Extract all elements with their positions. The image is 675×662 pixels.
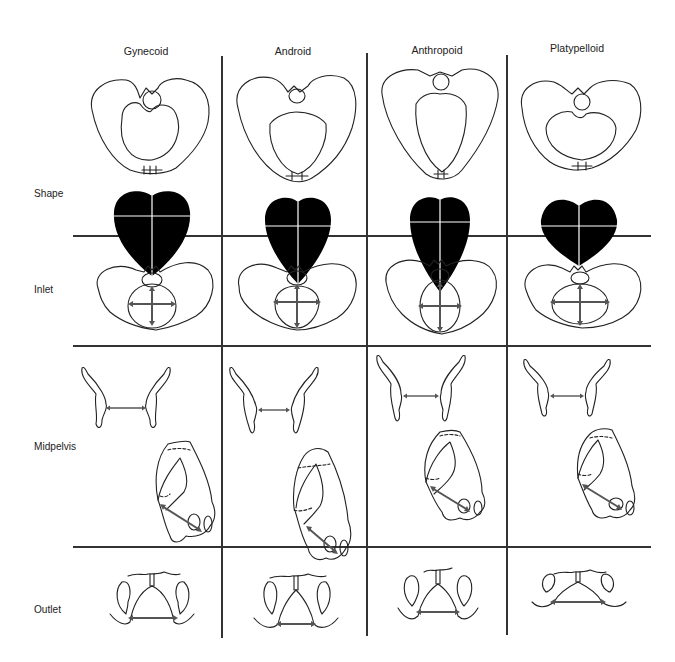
outlet-illustration-platypelloid — [530, 568, 630, 618]
midpelvis-lateral-platypelloid — [574, 428, 646, 528]
column-header-android: Android — [238, 45, 348, 57]
midpelvis-spines-platypelloid — [522, 356, 612, 422]
row-label-midpelvis: Midpelvis — [34, 440, 76, 452]
outlet-illustration-gynecoid — [108, 570, 198, 628]
column-divider-3 — [506, 55, 508, 635]
pelvis-illustration-android — [232, 68, 362, 184]
row-label-shape: Shape — [34, 187, 63, 199]
column-header-gynecoid: Gynecoid — [91, 45, 201, 57]
pelvis-illustration-platypelloid — [516, 72, 646, 176]
pelvis-illustration-anthropoid — [376, 64, 506, 184]
row-divider-inlet-midpelvis — [73, 345, 651, 347]
midpelvis-spines-anthropoid — [375, 352, 467, 426]
outlet-illustration-anthropoid — [396, 568, 486, 626]
column-divider-1 — [221, 56, 223, 638]
inlet-illustration-anthropoid — [380, 254, 504, 338]
row-label-outlet: Outlet — [34, 603, 61, 615]
midpelvis-spines-android — [228, 364, 320, 438]
column-divider-2 — [366, 53, 368, 636]
row-label-inlet: Inlet — [34, 283, 53, 295]
midpelvis-spines-gynecoid — [80, 364, 172, 432]
midpelvis-lateral-android — [290, 448, 360, 564]
outlet-illustration-android — [252, 574, 342, 632]
pelvis-illustration-gynecoid — [86, 70, 216, 180]
column-header-anthropoid: Anthropoid — [382, 44, 492, 56]
inlet-illustration-platypelloid — [520, 256, 646, 336]
midpelvis-lateral-anthropoid — [420, 428, 492, 530]
midpelvis-lateral-gynecoid — [150, 440, 220, 548]
inlet-illustration-android — [233, 256, 363, 336]
column-header-platypelloid: Platypelloid — [522, 42, 632, 54]
inlet-illustration-gynecoid — [92, 256, 218, 336]
